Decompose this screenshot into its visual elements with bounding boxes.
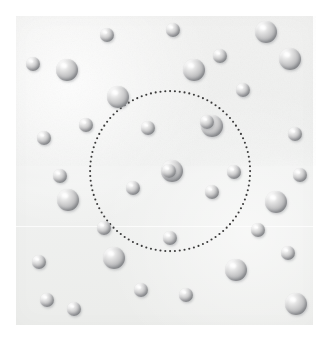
particle-sphere-small <box>141 121 155 135</box>
particle-sphere-small <box>40 293 54 307</box>
particle-sphere-small <box>37 131 51 145</box>
particle-sphere-small <box>281 246 295 260</box>
particle-sphere-small <box>67 302 81 316</box>
particle-sphere-large <box>56 59 78 81</box>
particle-sphere-large <box>279 48 301 70</box>
particle-sphere-small <box>163 231 177 245</box>
particle-sphere-small <box>288 127 302 141</box>
particle-sphere-small <box>162 164 176 178</box>
particle-sphere-large <box>103 247 125 269</box>
particle-sphere-small <box>126 181 140 195</box>
figure-root <box>0 0 325 341</box>
particle-sphere-small <box>134 283 148 297</box>
particle-sphere-small <box>213 49 227 63</box>
particle-sphere-small <box>53 169 67 183</box>
panel-seam <box>16 226 313 227</box>
particle-sphere-small <box>200 115 214 129</box>
particle-sphere-small <box>166 23 180 37</box>
particle-sphere-small <box>26 57 40 71</box>
particle-sphere-small <box>179 288 193 302</box>
particle-sphere-large <box>225 259 247 281</box>
particle-sphere-large <box>183 59 205 81</box>
particle-sphere-small <box>79 118 93 132</box>
particle-sphere-small <box>293 168 307 182</box>
particle-sphere-large <box>285 293 307 315</box>
particle-sphere-small <box>227 165 241 179</box>
particle-sphere-large <box>255 21 277 43</box>
particle-sphere-small <box>97 221 111 235</box>
particle-sphere-small <box>205 185 219 199</box>
particle-sphere-large <box>57 189 79 211</box>
particle-sphere-large <box>107 86 129 108</box>
particle-sphere-small <box>100 28 114 42</box>
particle-sphere-large <box>265 191 287 213</box>
particle-sphere-small <box>251 223 265 237</box>
particle-sphere-small <box>236 83 250 97</box>
particle-sphere-small <box>32 255 46 269</box>
